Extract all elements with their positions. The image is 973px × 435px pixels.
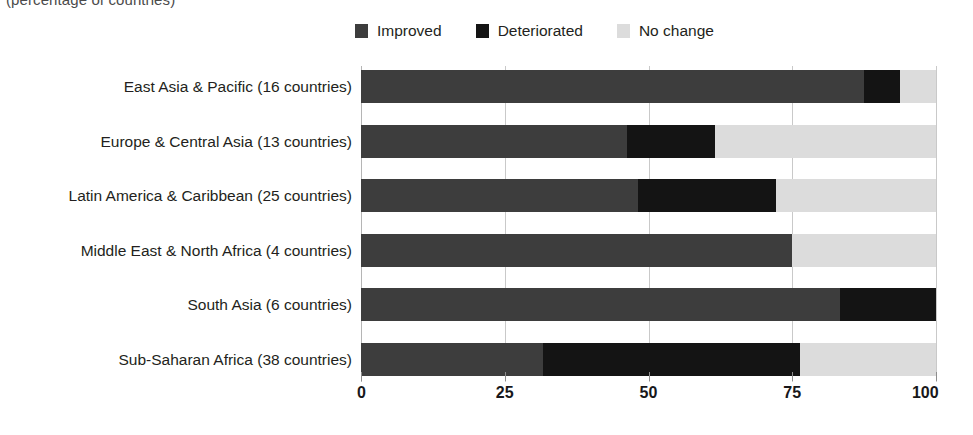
bar-rows	[361, 66, 936, 372]
bar-segment-deteriorated	[627, 125, 716, 158]
axis-tick-75	[792, 372, 793, 381]
bar-segment-no-change	[776, 179, 936, 212]
legend-item-improved: Improved	[355, 22, 442, 40]
bar-segment-improved	[361, 70, 864, 103]
legend-label-improved: Improved	[377, 22, 442, 40]
legend-item-no-change: No change	[617, 22, 714, 40]
legend-label-deteriorated: Deteriorated	[498, 22, 583, 40]
bar-segment-improved	[361, 125, 627, 158]
gridline-100	[936, 66, 937, 382]
axis-tick-label: 0	[357, 384, 366, 402]
bar-segment-deteriorated	[840, 288, 936, 321]
bar-row	[361, 288, 936, 321]
plot-area	[361, 66, 936, 372]
chart-subtitle: (percentage of countries)	[6, 0, 175, 8]
category-label: Sub-Saharan Africa (38 countries)	[0, 343, 352, 376]
legend-item-deteriorated: Deteriorated	[476, 22, 583, 40]
legend-label-no-change: No change	[639, 22, 714, 40]
category-label: Europe & Central Asia (13 countries)	[0, 125, 352, 158]
bar-segment-no-change	[715, 125, 936, 158]
bar-segment-deteriorated	[864, 70, 900, 103]
chart-legend: Improved Deteriorated No change	[355, 22, 714, 40]
bar-row	[361, 70, 936, 103]
bar-segment-no-change	[900, 70, 936, 103]
bar-row	[361, 179, 936, 212]
axis-tick-label: 100	[912, 384, 939, 402]
category-axis-labels: East Asia & Pacific (16 countries)Europe…	[0, 66, 352, 372]
legend-swatch-improved	[355, 24, 368, 38]
bar-row	[361, 234, 936, 267]
category-label: South Asia (6 countries)	[0, 288, 352, 321]
legend-swatch-no-change	[617, 24, 630, 38]
axis-tick-label: 75	[783, 384, 801, 402]
axis-tick-25	[505, 372, 506, 381]
bar-segment-improved	[361, 179, 638, 212]
legend-swatch-deteriorated	[476, 24, 489, 38]
bar-segment-no-change	[792, 234, 936, 267]
bar-segment-improved	[361, 234, 792, 267]
value-axis: 0255075100	[361, 372, 936, 412]
stacked-bar-chart: (percentage of countries) Improved Deter…	[0, 0, 973, 435]
category-label: Latin America & Caribbean (25 countries)	[0, 179, 352, 212]
axis-tick-0	[361, 372, 362, 381]
axis-tick-50	[649, 372, 650, 381]
category-label: East Asia & Pacific (16 countries)	[0, 70, 352, 103]
bar-segment-deteriorated	[638, 179, 776, 212]
axis-tick-label: 50	[640, 384, 658, 402]
bar-segment-improved	[361, 288, 840, 321]
category-label: Middle East & North Africa (4 countries)	[0, 234, 352, 267]
axis-tick-100	[936, 372, 937, 381]
bar-row	[361, 125, 936, 158]
axis-tick-label: 25	[496, 384, 514, 402]
